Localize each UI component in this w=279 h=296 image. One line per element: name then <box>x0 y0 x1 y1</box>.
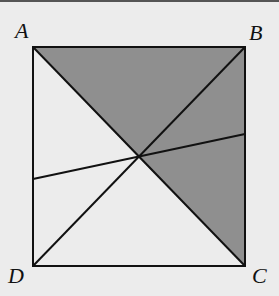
square-diagram: A B C D <box>0 0 279 296</box>
vertex-label-a: A <box>13 18 29 43</box>
vertex-label-b: B <box>249 20 262 45</box>
vertex-label-d: D <box>7 263 24 288</box>
vertex-label-c: C <box>252 263 267 288</box>
